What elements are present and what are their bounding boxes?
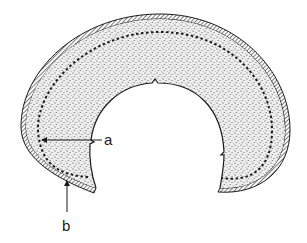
diagram-canvas: a b <box>0 0 307 243</box>
label-b: b <box>62 217 70 234</box>
label-a: a <box>104 131 113 148</box>
